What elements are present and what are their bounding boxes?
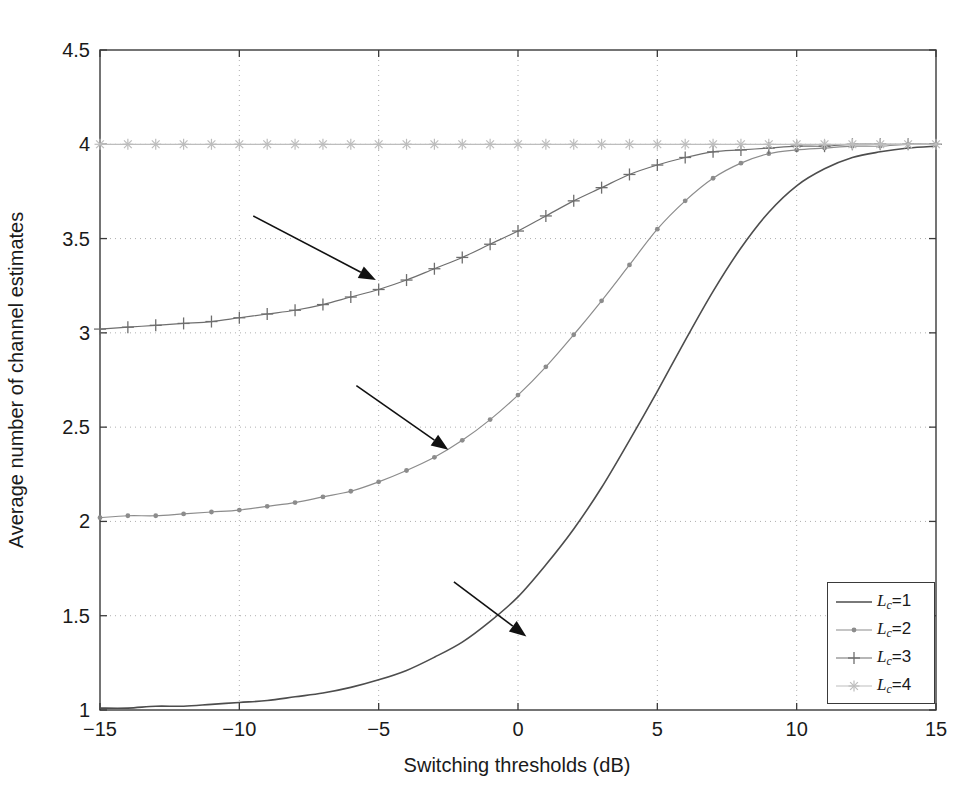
legend-label-value: =2: [892, 619, 911, 638]
x-tick-label: 15: [925, 718, 947, 741]
marker-dot: [516, 393, 521, 398]
arrow-to-lc2: [356, 386, 448, 450]
x-tick-label: −5: [367, 718, 390, 741]
marker-dot: [209, 510, 214, 515]
legend-label-Lc=1: Lc=1: [877, 591, 911, 613]
legend-label-Lc=3: Lc=3: [877, 647, 911, 669]
arrow-shaft: [454, 582, 513, 626]
marker-dot: [376, 479, 381, 484]
arrow-head: [509, 621, 526, 636]
legend-sample-Lc=4: [834, 678, 874, 694]
legend-entry-Lc=1[interactable]: Lc=1: [828, 588, 934, 616]
arrow-shaft: [356, 386, 434, 440]
legend-label-Lc=4: Lc=4: [877, 675, 911, 697]
x-tick-label: −10: [222, 718, 256, 741]
marker-dot: [655, 227, 660, 232]
legend-entry-Lc=4[interactable]: Lc=4: [828, 672, 934, 700]
marker-dot: [98, 515, 103, 520]
marker-dot: [711, 176, 716, 181]
marker-dot: [321, 495, 326, 500]
arrow-to-lc1: [454, 582, 526, 637]
legend-entry-Lc=3[interactable]: Lc=3: [828, 644, 934, 672]
marker-dot: [599, 298, 604, 303]
marker-dot: [627, 263, 632, 268]
marker-dot: [293, 500, 298, 505]
legend-entry-Lc=2[interactable]: Lc=2: [828, 616, 934, 644]
x-tick-label: 5: [652, 718, 663, 741]
legend-sample-Lc=1: [834, 594, 874, 610]
x-tick-label: 10: [786, 718, 808, 741]
chart-legend[interactable]: Lc=1Lc=2Lc=3Lc=4: [827, 582, 935, 704]
arrow-head: [431, 435, 449, 450]
marker-dot: [543, 364, 548, 369]
chart-figure: −15−10−505101511.522.533.544.5 Switching…: [0, 0, 979, 805]
y-tick-label: 3.5: [62, 227, 90, 250]
arrow-to-lc3: [253, 216, 376, 280]
y-tick-label: 2: [79, 510, 90, 533]
marker-dot: [404, 468, 409, 473]
x-tick-label: 0: [512, 718, 523, 741]
y-tick-label: 4: [79, 133, 90, 156]
marker-dot: [683, 198, 688, 203]
arrow-head: [358, 266, 376, 280]
y-tick-label: 3: [79, 321, 90, 344]
marker-dot: [265, 504, 270, 509]
legend-sample-Lc=2: [834, 622, 874, 638]
marker-dot: [852, 628, 857, 633]
marker-dot: [571, 332, 576, 337]
marker-dot: [488, 417, 493, 422]
marker-dot: [181, 511, 186, 516]
legend-label-value: =3: [892, 647, 911, 666]
legend-label-value: =4: [892, 675, 911, 694]
legend-sample-Lc=3: [834, 650, 874, 666]
marker-dot: [432, 455, 437, 460]
y-tick-label: 1: [79, 699, 90, 722]
marker-dot: [153, 513, 158, 518]
x-axis-label: Switching thresholds (dB): [404, 754, 631, 777]
y-tick-label: 4.5: [62, 39, 90, 62]
y-tick-label: 2.5: [62, 416, 90, 439]
annotation-arrows: [253, 216, 526, 637]
marker-dot: [237, 508, 242, 513]
marker-dot: [348, 489, 353, 494]
arrow-shaft: [253, 216, 361, 272]
marker-dot: [739, 161, 744, 166]
legend-label-Lc=2: Lc=2: [877, 619, 911, 641]
y-tick-label: 1.5: [62, 604, 90, 627]
y-axis-label: Average number of channel estimates: [5, 212, 28, 549]
marker-dot: [125, 513, 130, 518]
marker-dot: [460, 438, 465, 443]
data-series-layer: [94, 138, 942, 708]
legend-label-value: =1: [892, 591, 911, 610]
